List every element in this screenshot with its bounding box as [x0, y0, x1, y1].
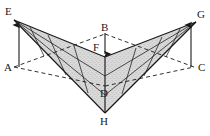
vertex-label-C: C	[198, 62, 205, 73]
vertex-label-G: G	[197, 9, 205, 20]
vertex-label-F: F	[93, 42, 99, 53]
vertex-label-E: E	[5, 6, 12, 17]
ruling-left-1	[14, 20, 105, 76]
vertex-label-A: A	[4, 62, 12, 73]
vertex-label-D: D	[100, 88, 108, 99]
vertex-label-B: B	[101, 22, 108, 33]
geometry-figure: E G A C B F D H	[0, 0, 210, 136]
vertex-label-H: H	[100, 116, 108, 127]
